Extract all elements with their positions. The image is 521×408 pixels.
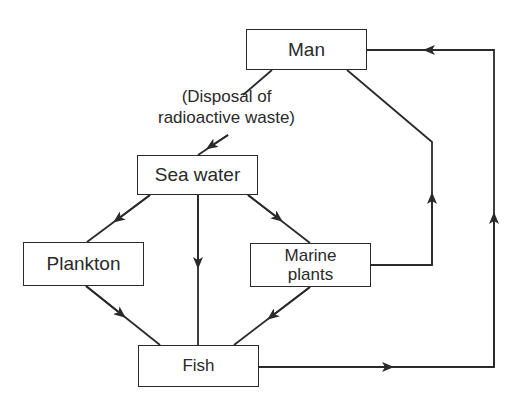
node-sea-water-label: Sea water bbox=[155, 164, 241, 186]
node-marine-plants-label-line1: Marine bbox=[285, 246, 337, 265]
edge-marine-plants-to-man bbox=[347, 70, 432, 265]
node-plankton-label: Plankton bbox=[47, 253, 121, 275]
waste-annotation: (Disposal of radioactive waste) bbox=[158, 86, 295, 128]
node-sea-water: Sea water bbox=[137, 155, 258, 195]
node-marine-plants-label-line2: plants bbox=[288, 265, 333, 284]
waste-annotation-line1: (Disposal of bbox=[158, 86, 295, 107]
node-fish: Fish bbox=[138, 345, 259, 387]
arrow-marine-plants-to-fish bbox=[272, 287, 310, 316]
node-man: Man bbox=[246, 29, 367, 70]
node-plankton: Plankton bbox=[23, 242, 144, 286]
node-fish-label: Fish bbox=[182, 356, 214, 376]
arrow-sea-water-to-marine-plants bbox=[248, 195, 278, 218]
node-marine-plants: Marine plants bbox=[250, 243, 371, 287]
waste-annotation-line2: radioactive waste) bbox=[158, 107, 295, 128]
arrow-waste-to-sea-water bbox=[211, 135, 228, 146]
arrow-plankton-to-fish bbox=[86, 286, 121, 314]
arrow-sea-water-to-plankton bbox=[118, 195, 150, 219]
node-man-label: Man bbox=[288, 39, 325, 61]
